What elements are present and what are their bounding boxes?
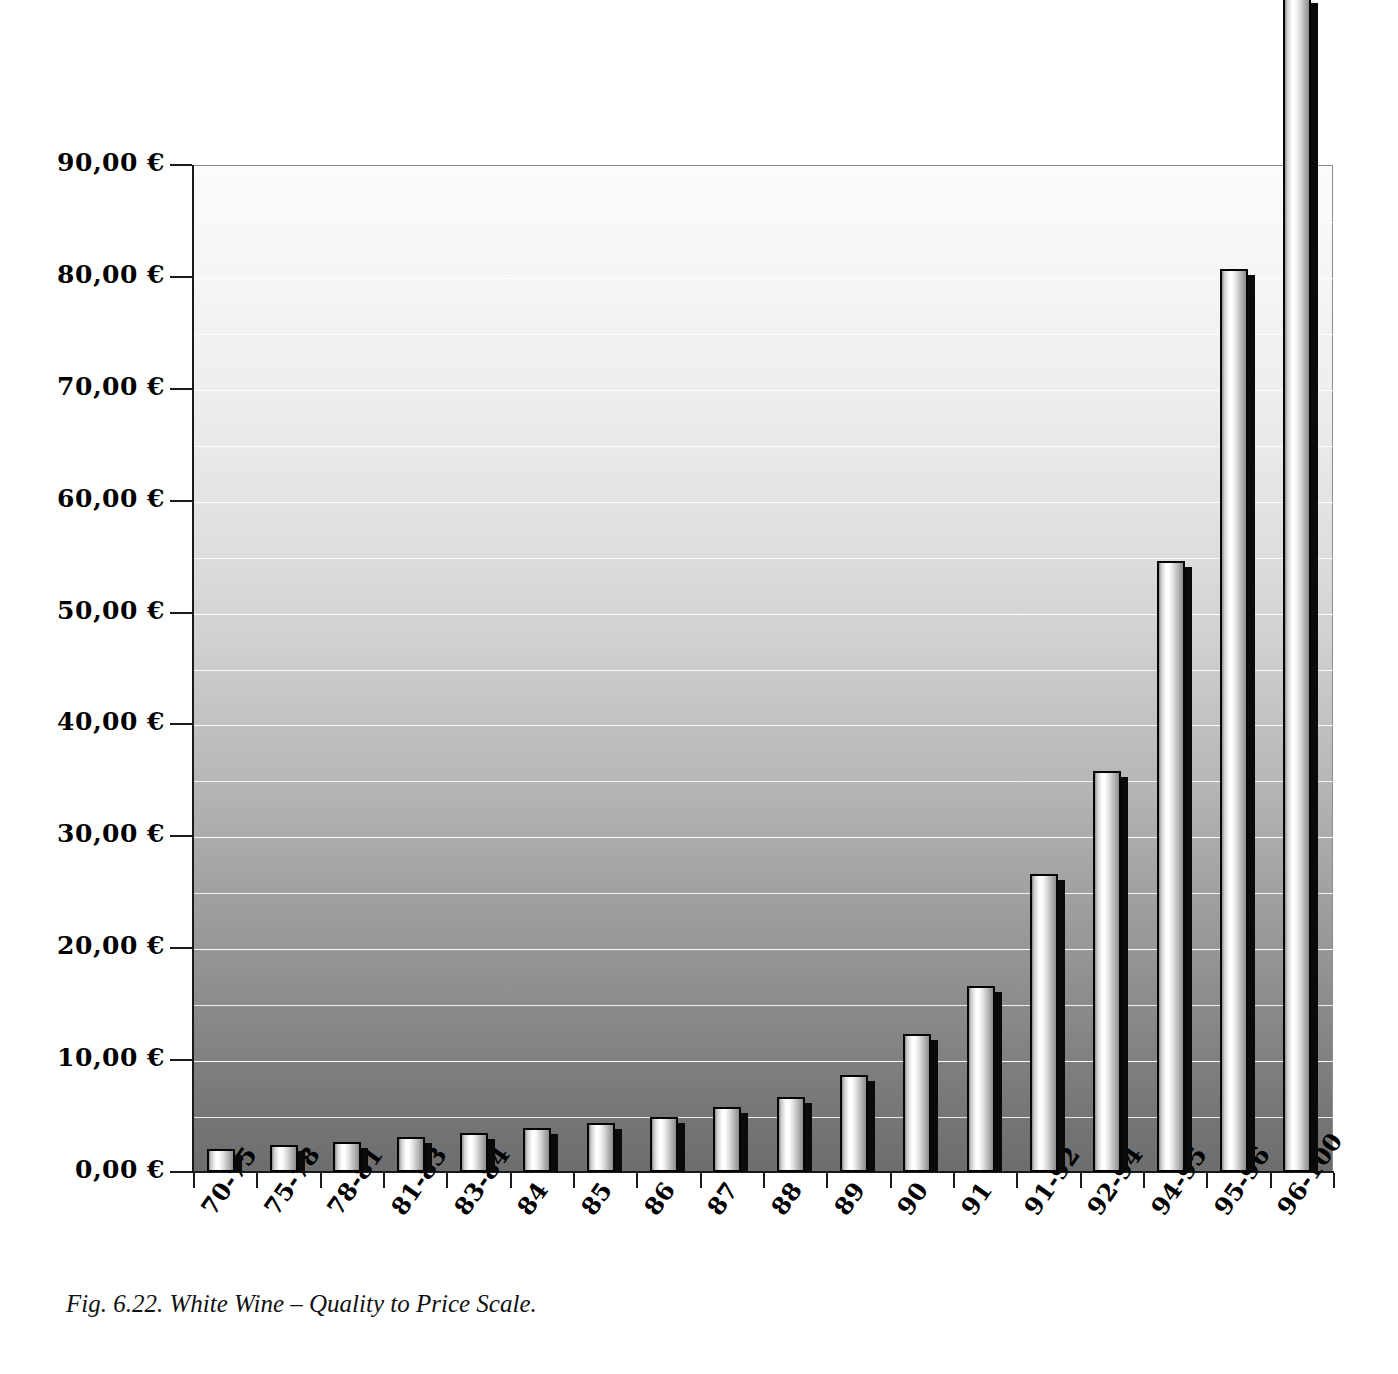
x-tick-3 [383, 1173, 385, 1188]
x-tick-7 [636, 1173, 638, 1188]
x-axis-label-89: 89 [828, 1177, 871, 1221]
bar-88[interactable] [777, 1097, 805, 1172]
x-tick-4 [446, 1173, 448, 1188]
y-tick-50 [170, 612, 192, 614]
y-tick-80 [170, 276, 192, 278]
bar-78-81[interactable] [333, 1142, 361, 1172]
x-tick-16 [1206, 1173, 1208, 1188]
x-tick-5 [510, 1173, 512, 1188]
y-tick-20 [170, 947, 192, 949]
x-axis-label-85: 85 [575, 1177, 618, 1221]
bar-75-78[interactable] [270, 1145, 298, 1172]
x-axis-label-84: 84 [511, 1177, 554, 1221]
bar-83-84[interactable] [460, 1133, 488, 1172]
bar-85[interactable] [587, 1123, 615, 1172]
x-tick-13 [1016, 1173, 1018, 1188]
x-axis-label-87: 87 [701, 1177, 744, 1221]
bar-84[interactable] [523, 1128, 551, 1172]
x-tick-12 [953, 1173, 955, 1188]
x-tick-14 [1080, 1173, 1082, 1188]
x-tick-0 [193, 1173, 195, 1188]
x-tick-6 [573, 1173, 575, 1188]
x-tick-end [1333, 1173, 1335, 1188]
y-tick-70 [170, 388, 192, 390]
figure-caption: Fig. 6.22. White Wine – Quality to Price… [66, 1290, 537, 1318]
x-axis-label-91: 91 [955, 1177, 998, 1221]
x-tick-17 [1270, 1173, 1272, 1188]
x-axis-label-86: 86 [638, 1177, 681, 1221]
y-tick-10 [170, 1059, 192, 1061]
bar-89[interactable] [840, 1075, 868, 1172]
bar-87[interactable] [713, 1107, 741, 1172]
x-tick-1 [256, 1173, 258, 1188]
x-axis-label-88: 88 [765, 1177, 808, 1221]
x-tick-11 [890, 1173, 892, 1188]
bar-91-92[interactable] [1030, 874, 1058, 1172]
x-tick-2 [320, 1173, 322, 1188]
y-tick-30 [170, 835, 192, 837]
bar-94-95[interactable] [1157, 561, 1185, 1172]
bar-96-100[interactable] [1283, 0, 1311, 1172]
bar-92-94[interactable] [1093, 771, 1121, 1172]
bar-70-75[interactable] [207, 1149, 235, 1172]
x-tick-8 [700, 1173, 702, 1188]
x-tick-10 [826, 1173, 828, 1188]
y-tick-40 [170, 723, 192, 725]
bar-91[interactable] [967, 986, 995, 1172]
bar-86[interactable] [650, 1117, 678, 1172]
x-tick-9 [763, 1173, 765, 1188]
x-tick-15 [1143, 1173, 1145, 1188]
y-tick-0 [170, 1171, 192, 1173]
y-tick-90 [170, 164, 192, 166]
bar-90[interactable] [903, 1034, 931, 1172]
x-axis-label-90: 90 [891, 1177, 934, 1221]
y-tick-60 [170, 500, 192, 502]
bar-95-96[interactable] [1220, 269, 1248, 1172]
figure-white-wine-quality-price: 0,00 €10,00 €20,00 €30,00 €40,00 €50,00 … [0, 0, 1398, 1374]
bar-81-83[interactable] [397, 1137, 425, 1172]
